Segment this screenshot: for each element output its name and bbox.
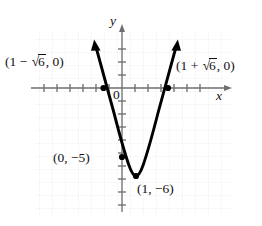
left-label-close: , 0) — [46, 54, 64, 69]
right-label-close: , 0) — [217, 58, 235, 73]
left-label-radicand: 6 — [38, 54, 46, 69]
left-label-operator: − — [20, 54, 28, 69]
coordinate-plane — [0, 0, 262, 226]
graph-figure: (1 − √6, 0) (1 + √6, 0) (0, −5) (1, −6) … — [0, 0, 262, 226]
right-label-radicand: 6 — [209, 58, 217, 73]
label-vertex: (1, −6) — [137, 181, 174, 197]
y-axis-label: y — [110, 13, 116, 29]
point-left-x-intercept — [100, 85, 106, 91]
right-label-open: (1 — [176, 58, 191, 73]
origin-label: 0 — [113, 87, 120, 103]
right-label-operator: + — [191, 58, 199, 73]
point-vertex — [133, 173, 139, 179]
label-left-x-intercept: (1 − √6, 0) — [5, 54, 64, 70]
x-axis-label: x — [216, 88, 222, 104]
right-label-radical-group: √6 — [202, 58, 217, 74]
label-right-x-intercept: (1 + √6, 0) — [176, 58, 235, 74]
point-y-intercept — [119, 154, 125, 160]
label-y-intercept: (0, −5) — [53, 150, 90, 166]
left-label-radical-group: √6 — [31, 54, 46, 70]
point-right-x-intercept — [165, 85, 171, 91]
left-label-open: (1 — [5, 54, 20, 69]
